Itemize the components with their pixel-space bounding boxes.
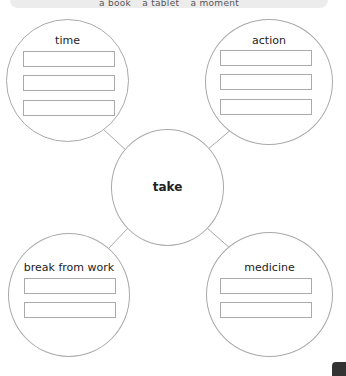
answer-box[interactable] <box>24 302 116 318</box>
center-label: take <box>112 180 223 194</box>
answer-box[interactable] <box>220 99 312 115</box>
node-medicine: medicine <box>206 232 333 357</box>
answer-box[interactable] <box>220 74 312 90</box>
connector-action <box>207 129 232 150</box>
answer-box[interactable] <box>220 302 312 318</box>
center-node: take <box>111 129 224 246</box>
node-break-from-work: break from work <box>8 233 130 357</box>
connector-break <box>108 228 128 249</box>
node-label: action <box>206 34 332 47</box>
answer-box[interactable] <box>23 75 115 91</box>
node-action: action <box>205 19 333 145</box>
page-corner-tab <box>332 362 346 376</box>
node-label: time <box>7 34 128 47</box>
node-label: medicine <box>207 261 332 274</box>
node-label: break from work <box>9 261 129 274</box>
answer-box[interactable] <box>220 278 312 294</box>
connector-medicine <box>207 228 231 249</box>
answer-box[interactable] <box>24 278 116 294</box>
node-time: time <box>6 19 129 142</box>
answer-box[interactable] <box>23 100 115 116</box>
answer-box[interactable] <box>23 51 115 67</box>
answer-box[interactable] <box>220 50 312 66</box>
